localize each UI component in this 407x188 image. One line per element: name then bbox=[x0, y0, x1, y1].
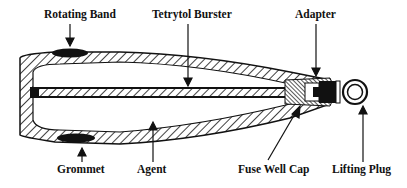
grommet bbox=[57, 134, 95, 143]
label-lifting-plug: Lifting Plug bbox=[332, 163, 391, 175]
label-tetrytol-burster: Tetrytol Burster bbox=[152, 8, 232, 20]
label-adapter: Adapter bbox=[295, 8, 336, 20]
rotating-band bbox=[52, 49, 88, 58]
label-rotating-band: Rotating Band bbox=[44, 8, 116, 20]
label-agent: Agent bbox=[137, 163, 166, 175]
burster-tube bbox=[31, 88, 293, 97]
label-fuse-well-cap: Fuse Well Cap bbox=[238, 163, 309, 175]
label-grommet: Grommet bbox=[57, 163, 105, 175]
munition-cross-section bbox=[0, 0, 407, 188]
